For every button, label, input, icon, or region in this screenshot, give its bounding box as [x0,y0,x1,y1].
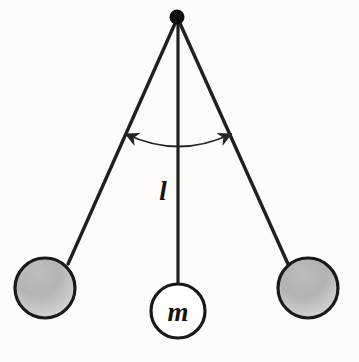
pivot-point [170,10,185,25]
pendulum-figure: l m [0,0,359,362]
mass-label: m [167,297,188,327]
pendulum-canvas: l m [0,0,359,362]
left-bob [15,258,75,318]
length-label: l [159,176,167,206]
right-bob [278,258,338,318]
